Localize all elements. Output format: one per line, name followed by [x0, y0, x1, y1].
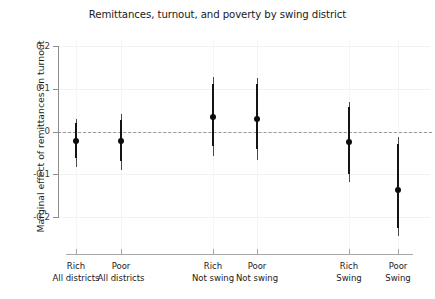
y-tick-mark — [53, 46, 58, 47]
y-tick-label: 0 — [12, 126, 50, 136]
y-tick-label: 0.1 — [12, 83, 50, 93]
gridline-horizontal — [58, 217, 430, 218]
x-axis-spine — [66, 254, 413, 255]
x-tick-label-line1: Poor — [78, 261, 164, 273]
x-tick-mark — [76, 249, 77, 254]
x-tick-mark — [257, 249, 258, 254]
x-tick-label-line1: Poor — [214, 261, 300, 273]
y-tick-label: 0.2 — [12, 41, 50, 51]
gridline-horizontal — [58, 46, 430, 47]
x-tick-mark — [121, 249, 122, 254]
x-tick-label-line2: Swing — [355, 273, 435, 285]
point-estimate-marker — [254, 116, 260, 122]
x-tick-mark — [213, 249, 214, 254]
x-tick-label: PoorNot swing — [214, 261, 300, 284]
y-tick-mark — [53, 132, 58, 133]
y-tick-mark — [53, 174, 58, 175]
y-tick-label: -0.2 — [12, 212, 50, 222]
chart-title: Remittances, turnout, and poverty by swi… — [0, 9, 435, 20]
x-tick-mark — [349, 249, 350, 254]
x-tick-label-line1: Poor — [355, 261, 435, 273]
gridline-horizontal — [58, 89, 430, 90]
zero-reference-line — [58, 132, 432, 133]
y-tick-mark — [53, 89, 58, 90]
x-tick-label: PoorSwing — [355, 261, 435, 284]
point-estimate-marker — [118, 138, 124, 144]
chart-figure: Remittances, turnout, and poverty by swi… — [0, 0, 435, 299]
gridline-horizontal — [58, 174, 430, 175]
x-tick-label-line2: Not swing — [214, 273, 300, 285]
y-tick-label: -0.1 — [12, 169, 50, 179]
y-tick-mark — [53, 217, 58, 218]
x-tick-mark — [398, 249, 399, 254]
x-tick-label-line2: All districts — [78, 273, 164, 285]
point-estimate-marker — [210, 114, 216, 120]
point-estimate-marker — [346, 139, 352, 145]
x-tick-label: PoorAll districts — [78, 261, 164, 284]
plot-area — [58, 40, 430, 255]
confidence-interval-inner — [397, 144, 400, 227]
